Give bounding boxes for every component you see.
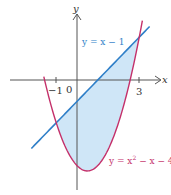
x-axis-label: x <box>162 75 168 85</box>
parabola-equation-label: y = x2 − x − 4 <box>109 155 171 166</box>
line-equation-label: y = x − 1 <box>82 38 124 47</box>
y-axis-label: y <box>73 4 79 14</box>
graph-figure: y x −1 0 3 y = x − 1 y = x2 − x − 4 <box>0 0 171 195</box>
tick-label-neg1: −1 <box>48 86 63 96</box>
parabola-label-base: y = x <box>109 156 132 166</box>
parabola-label-rest: − x − 4 <box>136 156 171 166</box>
origin-label: 0 <box>66 85 72 95</box>
shaded-region <box>56 37 139 171</box>
tick-label-3: 3 <box>136 87 142 97</box>
